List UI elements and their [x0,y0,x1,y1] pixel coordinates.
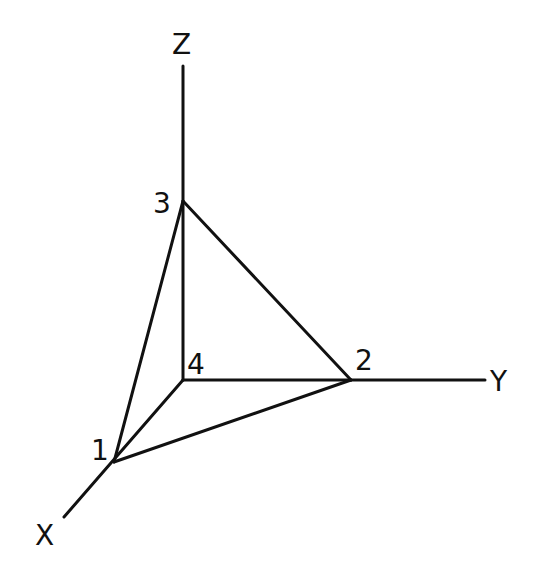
edge-1-2 [114,380,351,462]
z-axis-label: Z [172,28,191,61]
edge-3-2 [183,201,351,380]
edge-1-3 [114,201,183,462]
vertex-label-2: 2 [355,344,373,377]
x-axis-label: X [35,519,54,552]
y-axis-label: Y [489,365,508,398]
vertex-label-3: 3 [153,187,171,220]
vertex-label-1: 1 [91,434,109,467]
diagram-canvas: Z Y X 3 4 2 1 [0,0,535,582]
x-axis [64,380,183,517]
vertex-label-4: 4 [187,348,205,381]
